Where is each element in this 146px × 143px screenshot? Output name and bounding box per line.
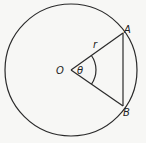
label-center-o: O (56, 65, 64, 76)
label-angle-theta: θ (77, 65, 83, 76)
label-point-b: B (123, 107, 130, 118)
angle-arc (91, 56, 96, 85)
circle-chord-diagram: O θ r A B (0, 0, 146, 143)
label-point-a: A (123, 24, 131, 35)
label-radius-r: r (93, 39, 98, 50)
